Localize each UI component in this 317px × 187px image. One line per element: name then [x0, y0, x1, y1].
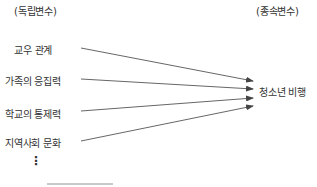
arrow-peer-to-delinquency	[81, 48, 253, 81]
causal-arrows	[0, 0, 317, 187]
arrow-school-to-delinquency	[81, 98, 253, 111]
arrow-family-to-delinquency	[81, 79, 253, 89]
arrow-community-to-delinquency	[81, 106, 253, 141]
